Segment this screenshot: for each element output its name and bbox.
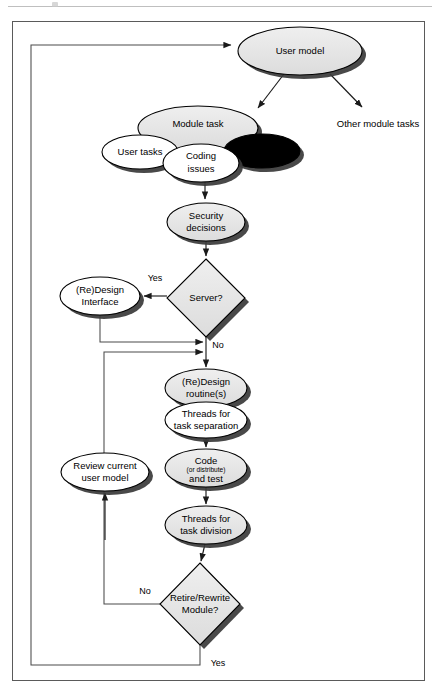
flowchart-canvas: User model Module task Resources User ta… bbox=[0, 0, 440, 696]
node-threads-sep-label-2: task separation bbox=[174, 420, 238, 431]
node-redesign-routines-label-1: (Re)Design bbox=[182, 376, 230, 387]
edge-label-retire-yes: Yes bbox=[211, 658, 226, 668]
node-review-label-2: user model bbox=[82, 472, 129, 483]
node-user-model-label: User model bbox=[276, 45, 325, 56]
node-other-module-tasks: Other module tasks bbox=[337, 118, 420, 129]
flowchart-figure: User model Module task Resources User ta… bbox=[0, 0, 440, 696]
node-security-label-2: decisions bbox=[186, 222, 226, 233]
node-threads-div-label-1: Threads for bbox=[182, 513, 231, 524]
node-retire-label-2: Module? bbox=[182, 604, 218, 615]
node-coding-issues-label-1: Coding bbox=[186, 150, 216, 161]
node-security-decisions[interactable]: Security decisions bbox=[167, 203, 249, 245]
node-redesign-interface-label-1: (Re)Design bbox=[76, 284, 124, 295]
node-review-label-1: Review current bbox=[73, 460, 137, 471]
node-redesign-interface-label-2: Interface bbox=[82, 296, 119, 307]
edge-user-model-to-module-task bbox=[258, 74, 284, 108]
node-server-decision-label: Server? bbox=[189, 292, 222, 303]
node-code-label-1: Code bbox=[195, 455, 218, 466]
edge-label-server-no: No bbox=[212, 340, 224, 350]
node-redesign-routines-label-2: routine(s) bbox=[186, 388, 226, 399]
node-resources-label: Resources bbox=[239, 145, 285, 156]
edge-user-model-to-other-tasks bbox=[330, 74, 362, 107]
node-threads-task-separation[interactable]: Threads for task separation bbox=[165, 402, 251, 442]
node-code-and-test[interactable]: Code (or distribute) and test bbox=[165, 449, 251, 491]
node-module-task-label: Module task bbox=[172, 118, 223, 129]
edge-label-server-yes: Yes bbox=[148, 273, 163, 283]
node-coding-issues-label-2: issues bbox=[188, 163, 215, 174]
node-user-tasks-label: User tasks bbox=[118, 146, 163, 157]
node-review-user-model[interactable]: Review current user model bbox=[61, 453, 153, 495]
node-security-label-1: Security bbox=[189, 210, 224, 221]
node-server-decision[interactable]: Server? bbox=[167, 259, 249, 341]
node-retire-rewrite-decision[interactable]: Retire/Rewrite Module? bbox=[160, 563, 244, 649]
node-threads-sep-label-1: Threads for bbox=[182, 408, 231, 419]
edge-label-retire-no: No bbox=[139, 586, 151, 596]
node-redesign-interface[interactable]: (Re)Design Interface bbox=[60, 277, 144, 319]
node-code-label-3: and test bbox=[189, 473, 223, 484]
node-retire-label-1: Retire/Rewrite bbox=[170, 592, 230, 603]
node-user-model[interactable]: User model bbox=[238, 27, 366, 79]
node-threads-div-label-2: task division bbox=[180, 525, 232, 536]
node-threads-task-division[interactable]: Threads for task division bbox=[165, 506, 251, 548]
